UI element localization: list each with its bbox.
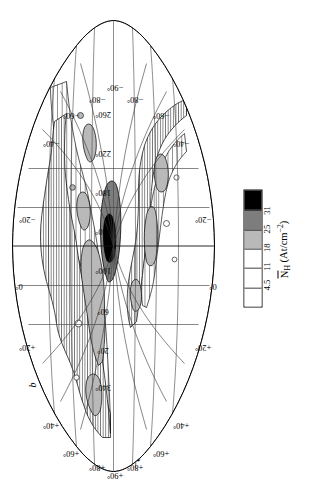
colorbar-tick-0: 4.5 bbox=[261, 279, 271, 290]
colorbar-label-subscript: H bbox=[283, 265, 292, 271]
colorbar-tick-2: 18 bbox=[261, 243, 271, 252]
sky-map-figure: −80 < V < −30 km/sec bbox=[0, 0, 321, 495]
graticule-label-left-0: +60° bbox=[62, 448, 78, 457]
graticule-label-top-1: +20° bbox=[18, 342, 34, 351]
colorbar-label-units-open: (At/cm bbox=[278, 232, 289, 262]
colorbar-swatch-coarse-hatch bbox=[244, 267, 261, 286]
colorbar-swatch-light-gray bbox=[244, 229, 261, 248]
colorbar-swatch-black bbox=[244, 190, 261, 209]
graticule-label-right-2: −90° bbox=[106, 82, 122, 91]
meridian-label-0: 340° bbox=[95, 383, 111, 392]
graticule-label-bottom-1: +20° bbox=[194, 342, 210, 351]
colorbar-ticks: 4.5 11 18 25 31 bbox=[261, 191, 273, 307]
graticule-label-left-2: +90° bbox=[106, 470, 122, 479]
colorbar-tick-3: 25 bbox=[261, 224, 271, 233]
meridian-label-6: 220° bbox=[95, 149, 111, 158]
colorbar-label-symbol: N bbox=[278, 270, 289, 278]
figure-rotator: −80 < V < −30 km/sec bbox=[0, 0, 321, 495]
graticule-label-bottom-4: −40° bbox=[172, 138, 188, 147]
colorbar-label-units-close: ) bbox=[278, 220, 289, 224]
graticule-label-left-3: +80° bbox=[126, 462, 142, 471]
graticule-label-right-0: −60° bbox=[62, 110, 78, 119]
colorbar-tick-1: 11 bbox=[261, 262, 271, 270]
graticule-label-left-4: +60° bbox=[152, 448, 168, 457]
graticule-label-top-2: 0° bbox=[15, 282, 22, 291]
meridian-label-1: 20° bbox=[97, 346, 109, 355]
latitude-axis-symbol: b bbox=[26, 382, 37, 387]
meridian-label-2: 60° bbox=[97, 307, 109, 316]
graticule-label-bottom-2: 0° bbox=[209, 282, 216, 291]
graticule-label-left-1: +80° bbox=[88, 462, 104, 471]
colorbar-axis-label: NH (At/cm−2) bbox=[275, 191, 292, 307]
meridian-label-7: 260° bbox=[95, 110, 111, 119]
colorbar-tick-4: 31 bbox=[261, 206, 271, 215]
graticule-label-bottom-3: −20° bbox=[194, 214, 210, 223]
colorbar-legend: 4.5 11 18 25 31 NH (At/cm−2) bbox=[243, 187, 309, 317]
graticule-label-top-0: +40° bbox=[42, 420, 58, 429]
colorbar-swatch-dark-gray bbox=[244, 209, 261, 228]
graticule-label-right-1: −80° bbox=[88, 94, 104, 103]
colorbar-label-units-exponent: −2 bbox=[275, 224, 284, 232]
graticule-label-top-3: −20° bbox=[18, 214, 34, 223]
colorbar-swatch-fine-hatch bbox=[244, 248, 261, 267]
colorbar bbox=[243, 189, 262, 307]
graticule-label-top-4: −40° bbox=[42, 138, 58, 147]
graticule-label-right-4: −60° bbox=[152, 110, 168, 119]
colorbar-swatch-blank bbox=[244, 287, 261, 306]
meridian-label-3: 100° bbox=[95, 266, 111, 275]
meridian-label-4: 140° bbox=[95, 227, 111, 236]
graticule-label-bottom-0: +40° bbox=[172, 420, 188, 429]
meridian-label-5: 180° bbox=[95, 188, 111, 197]
graticule-label-right-3: −80° bbox=[126, 94, 142, 103]
